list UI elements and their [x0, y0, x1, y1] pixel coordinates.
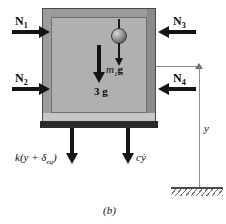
body-weight-label: 3 g: [94, 86, 108, 97]
normal-force-1-symbol: N: [15, 14, 24, 28]
spring-force-label: k(y + δeq): [15, 152, 57, 166]
damper-force-label: cẏ: [136, 152, 146, 163]
normal-force-2-arrow: [12, 87, 40, 91]
free-body-diagram-figure: m1g 3 g N1 N2 N3 N4 k(y + δeq) cẏ y (b): [0, 0, 226, 224]
normal-force-4-label: N4: [173, 72, 186, 87]
box-bevel-top: [43, 9, 155, 17]
normal-force-2-subscript: 2: [24, 78, 28, 87]
normal-force-1-label: N1: [15, 15, 28, 30]
dimension-label-y: y: [204, 123, 209, 134]
normal-force-3-subscript: 3: [182, 21, 186, 30]
body-weight-arrow: [97, 45, 101, 73]
normal-force-1-arrow: [12, 30, 40, 34]
damper-force-arrow: [126, 128, 130, 154]
dimension-vertical-line: [199, 66, 200, 188]
normal-force-4-arrow: [168, 87, 196, 91]
spring-force-prefix: k(y +: [15, 151, 41, 163]
normal-force-2-label: N2: [15, 72, 28, 87]
normal-force-3-arrow: [168, 30, 196, 34]
box-base-plate: [40, 121, 158, 128]
bob-weight-symbol: m: [106, 63, 114, 75]
box-bevel-bottom: [43, 113, 155, 121]
normal-force-1-subscript: 1: [24, 21, 28, 30]
ground-hatching-icon: [171, 189, 223, 196]
figure-caption: (b): [103, 205, 116, 216]
spring-force-arrow: [70, 128, 74, 154]
bob-weight-unit: g: [117, 63, 123, 75]
bob-weight-label: m1g: [106, 64, 123, 78]
normal-force-2-symbol: N: [15, 71, 24, 85]
normal-force-4-subscript: 4: [182, 78, 186, 87]
pendulum-bob-sphere: [111, 28, 127, 44]
dimension-extension-line: [156, 66, 200, 67]
spring-force-suffix: ): [53, 151, 57, 163]
normal-force-3-symbol: N: [173, 14, 182, 28]
normal-force-3-label: N3: [173, 15, 186, 30]
bob-weight-arrow: [118, 43, 120, 59]
damper-force-variable: ẏ: [141, 151, 146, 163]
normal-force-4-symbol: N: [173, 71, 182, 85]
box-bevel-right: [147, 9, 155, 121]
